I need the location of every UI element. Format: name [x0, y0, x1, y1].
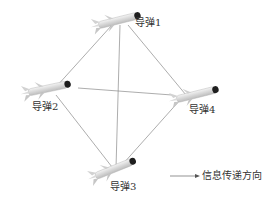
missile-2-icon [19, 75, 73, 103]
edge-2-3 [56, 95, 112, 167]
edge-4-3 [122, 100, 180, 165]
arrow-right-icon [170, 174, 200, 178]
label-missile-4: 导弹4 [189, 104, 215, 115]
label-missile-2: 导弹2 [32, 101, 58, 112]
edge-1-4 [128, 25, 186, 95]
legend-label: 信息传递方向 [202, 170, 262, 181]
label-missile-1: 导弹1 [135, 17, 161, 28]
edges [56, 25, 186, 168]
edge-2-4 [78, 88, 172, 95]
edge-1-3 [116, 25, 120, 168]
edge-1-2 [56, 25, 112, 87]
label-missile-3: 导弹3 [110, 181, 136, 192]
